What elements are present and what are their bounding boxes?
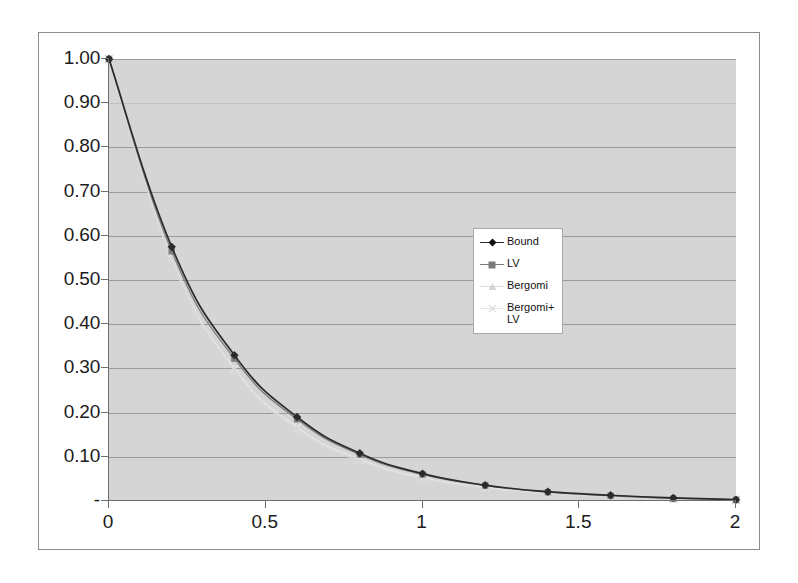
plot-area <box>109 59 736 501</box>
y-axis-tick-label: - <box>38 489 100 511</box>
legend-label-bergomi: Bergomi <box>507 280 548 292</box>
y-axis-tick-label: 0.10 <box>38 445 100 467</box>
y-axis-tick-label: 0.20 <box>38 401 100 423</box>
y-axis-tick-label: 0.80 <box>38 135 100 157</box>
y-axis-tick-label: 0.70 <box>38 180 100 202</box>
y-axis-tick-label: 1.00 <box>38 47 100 69</box>
plot-series-layer <box>109 59 736 501</box>
legend-item-bergomi[interactable]: Bergomi <box>479 280 556 293</box>
y-axis-tick-label: 0.30 <box>38 356 100 378</box>
legend-label-lv: LV <box>507 258 520 270</box>
legend-item-bound[interactable]: Bound <box>479 236 556 249</box>
y-axis-tick <box>101 146 109 147</box>
x-axis-tick-label: 2 <box>730 511 741 533</box>
x-axis-tick <box>735 500 736 508</box>
y-axis-tick <box>101 191 109 192</box>
legend-item-bergomi-lv[interactable]: Bergomi+LV <box>479 302 556 325</box>
series-bergomi-lv <box>105 55 740 505</box>
y-axis-tick <box>101 323 109 324</box>
y-axis-tick <box>101 279 109 280</box>
y-axis-tick-label: 0.60 <box>38 224 100 246</box>
y-axis-tick <box>101 102 109 103</box>
x-axis-tick <box>265 500 266 508</box>
y-axis-tick <box>101 58 109 59</box>
y-axis-tick <box>101 367 109 368</box>
y-axis-tick-label: 0.40 <box>38 312 100 334</box>
x-axis-tick-label: 0.5 <box>252 511 278 533</box>
series-line <box>109 59 736 500</box>
series-line <box>109 59 736 500</box>
x-axis-tick <box>108 500 109 508</box>
legend-label-bound: Bound <box>507 236 539 248</box>
y-axis-tick <box>101 412 109 413</box>
series-bound <box>105 55 740 504</box>
chart-legend: Bound LV Bergomi Bergomi+LV <box>473 228 563 334</box>
x-axis-tick <box>422 500 423 508</box>
x-axis-tick-label: 1.5 <box>565 511 591 533</box>
legend-marker-cross-icon <box>479 302 505 315</box>
y-axis-labels: -0.100.200.300.400.500.600.700.800.901.0… <box>34 0 100 583</box>
y-axis-tick-label: 0.90 <box>38 91 100 113</box>
legend-marker-triangle-icon <box>479 280 505 293</box>
y-axis-tick-label: 0.50 <box>38 268 100 290</box>
y-axis-tick <box>101 235 109 236</box>
y-axis-tick <box>101 456 109 457</box>
legend-item-lv[interactable]: LV <box>479 258 556 271</box>
legend-label-bergomi-lv: Bergomi+LV <box>507 302 556 325</box>
legend-marker-square-icon <box>479 258 505 271</box>
legend-marker-diamond-icon <box>479 236 505 249</box>
x-axis-tick-label: 0 <box>103 511 114 533</box>
x-axis-tick <box>578 500 579 508</box>
series-line <box>109 59 736 500</box>
series-lv <box>106 56 739 503</box>
series-bergomi <box>104 54 740 504</box>
series-line <box>109 59 736 500</box>
x-axis-tick-label: 1 <box>416 511 427 533</box>
chart-frame <box>38 32 760 550</box>
